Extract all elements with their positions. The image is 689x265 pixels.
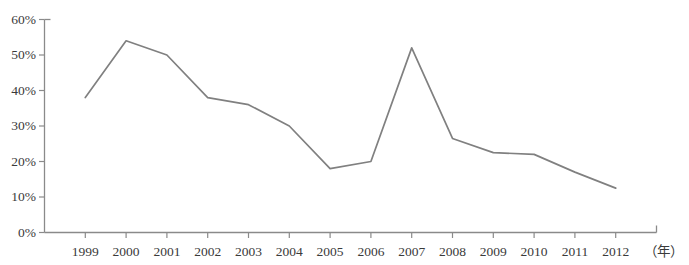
x-axis-tick-label: 2005	[317, 244, 344, 259]
x-axis-tick-label: 2007	[398, 244, 425, 259]
x-axis-tick-label: 2008	[439, 244, 466, 259]
x-axis-tick-label: 2000	[113, 244, 140, 259]
x-axis-unit-label: （年）	[644, 244, 683, 259]
x-axis-tick-label: 2006	[357, 244, 384, 259]
x-axis-tick-label: 2001	[153, 244, 180, 259]
line-chart: 0%10%20%30%40%50%60% 1999200020012002200…	[0, 0, 689, 265]
x-axis-tick-label: 2011	[562, 244, 589, 259]
x-axis-tick-label: 1999	[72, 244, 99, 259]
x-axis-tick-labels: 1999200020012002200320042005200620072008…	[0, 0, 689, 265]
x-axis-tick-label: 2003	[235, 244, 262, 259]
x-axis-tick-label: 2009	[480, 244, 507, 259]
x-axis-tick-label: 2002	[194, 244, 221, 259]
x-axis-tick-label: 2004	[276, 244, 303, 259]
x-axis-tick-label: 2012	[602, 244, 629, 259]
x-axis-tick-label: 2010	[521, 244, 548, 259]
